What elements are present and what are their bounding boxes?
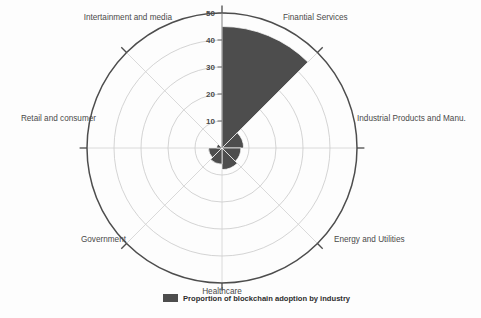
legend-label: Proportion of blockchain adoption by ind… xyxy=(183,294,351,303)
chart-legend: Proportion of blockchain adoption by ind… xyxy=(163,294,351,303)
tick-label-40: 40 xyxy=(206,36,215,45)
chart-page: 10 20 30 40 50 Finantial Services Indust… xyxy=(0,0,481,318)
category-label-retail-and-consumer: Retail and consumer xyxy=(21,114,96,123)
polar-rose-chart: 10 20 30 40 50 Finantial Services Indust… xyxy=(0,0,481,318)
tick-label-50: 50 xyxy=(206,9,215,18)
tick-label-20: 20 xyxy=(206,90,215,99)
tick-label-10: 10 xyxy=(206,117,215,126)
category-label-energy-and-utilities: Energy and Utilities xyxy=(334,235,405,244)
legend-swatch xyxy=(163,294,178,302)
category-label-industrial-products: Industrial Products and Manu. xyxy=(357,114,466,123)
category-label-finantial-services: Finantial Services xyxy=(283,13,348,22)
tick-label-30: 30 xyxy=(206,63,215,72)
category-label-intertainment-and-media: Intertainment and media xyxy=(84,13,173,22)
category-label-government: Government xyxy=(81,235,127,244)
